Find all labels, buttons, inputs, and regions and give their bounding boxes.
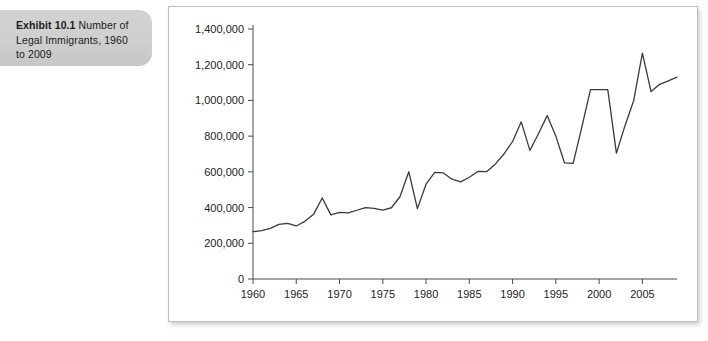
- x-tick-label: 1985: [457, 288, 481, 300]
- exhibit-caption-label: Exhibit 10.1: [16, 19, 76, 31]
- x-tick-label: 2000: [587, 288, 611, 300]
- line-chart: 0200,000400,000600,000800,0001,000,0001,…: [169, 7, 697, 321]
- exhibit-caption-box: Exhibit 10.1 Number of Legal Immigrants,…: [0, 10, 152, 66]
- y-axis: 0200,000400,000600,000800,0001,000,0001,…: [195, 23, 253, 285]
- y-tick-label: 600,000: [204, 166, 244, 178]
- data-series-group: [253, 53, 677, 232]
- x-tick-label: 2005: [630, 288, 654, 300]
- y-tick-label: 1,400,000: [195, 23, 244, 35]
- chart-svg: 0200,000400,000600,000800,0001,000,0001,…: [169, 7, 697, 321]
- x-tick-label: 1970: [327, 288, 351, 300]
- y-tick-label: 1,200,000: [195, 59, 244, 71]
- x-tick-label: 1995: [544, 288, 568, 300]
- figure-panel: 0200,000400,000600,000800,0001,000,0001,…: [168, 6, 698, 322]
- y-tick-label: 1,000,000: [195, 94, 244, 106]
- x-tick-label: 1980: [414, 288, 438, 300]
- exhibit-caption-text: Exhibit 10.1 Number of Legal Immigrants,…: [16, 18, 138, 62]
- data-line: [253, 53, 677, 232]
- y-tick-label: 200,000: [204, 237, 244, 249]
- x-tick-label: 1960: [241, 288, 265, 300]
- x-tick-label: 1975: [371, 288, 395, 300]
- x-tick-label: 1965: [284, 288, 308, 300]
- y-tick-label: 800,000: [204, 130, 244, 142]
- y-tick-label: 400,000: [204, 202, 244, 214]
- y-tick-label: 0: [238, 273, 244, 285]
- x-tick-label: 1990: [500, 288, 524, 300]
- x-axis: 1960196519701975198019851990199520002005: [241, 279, 677, 300]
